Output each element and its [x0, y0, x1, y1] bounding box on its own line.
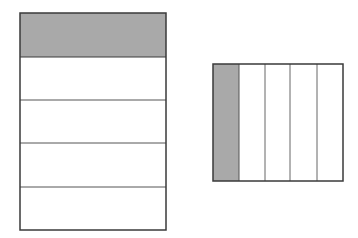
shaded-row	[20, 13, 166, 57]
row-3	[20, 100, 166, 143]
shaded-column	[213, 64, 239, 181]
row-5	[20, 187, 166, 230]
row-4	[20, 143, 166, 187]
vertical-fraction-model	[213, 64, 343, 181]
fraction-diagram	[0, 0, 358, 238]
row-2	[20, 57, 166, 100]
horizontal-fraction-model	[20, 13, 166, 230]
